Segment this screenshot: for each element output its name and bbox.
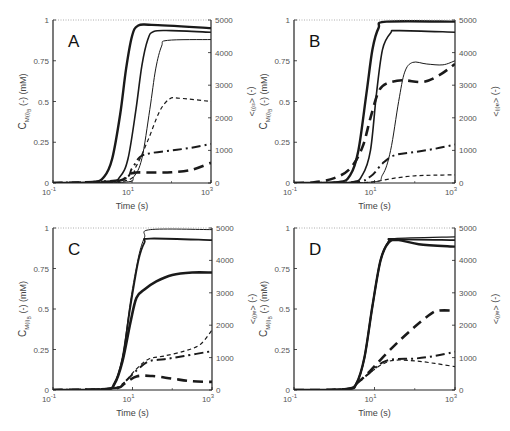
left-axis-label: CM(i)B (-) (mM) (17, 74, 32, 130)
x-tick-label: 10-1 (42, 186, 57, 197)
right-tick-label: 0 (215, 179, 220, 188)
series-line-dash-dot (53, 351, 212, 390)
x-tick-label: 101 (122, 186, 135, 197)
right-tick-label: 3000 (459, 81, 477, 90)
right-tick-label: 3000 (459, 289, 477, 298)
x-tick-label: 101 (122, 393, 135, 404)
right-axis-label: (-) <a(i)> (491, 86, 501, 117)
panel-letter: A (68, 32, 80, 51)
panel-d: 00.250.50.75101000200030004000500010-110… (258, 224, 501, 418)
right-axis-label: (-) <a(i)> (248, 294, 258, 325)
left-tick-label: 1 (45, 224, 50, 233)
x-tick-label: 103 (445, 186, 458, 197)
x-axis-label: Time (s) (358, 408, 391, 418)
right-tick-label: 1000 (215, 146, 233, 155)
right-tick-label: 3000 (215, 81, 233, 90)
x-tick-label: 10-1 (42, 393, 57, 404)
series-line-dash-thick (294, 64, 455, 183)
left-tick-label: 0.75 (274, 265, 290, 274)
left-tick-label: 0.5 (279, 305, 291, 314)
panel-letter: C (68, 240, 80, 259)
series-line-dash-thin (294, 360, 455, 390)
left-tick-label: 0.75 (33, 265, 49, 274)
x-tick-label: 103 (202, 393, 215, 404)
left-axis-label: CM(i)B (-) (mM) (17, 281, 32, 337)
x-axis-label: Time (s) (116, 408, 149, 418)
right-tick-label: 4000 (459, 256, 477, 265)
right-tick-label: 4000 (459, 49, 477, 58)
right-tick-label: 4000 (215, 49, 233, 58)
x-tick-label: 101 (364, 393, 377, 404)
panel-a: 00.250.50.75101000200030004000500010-110… (17, 16, 257, 211)
left-tick-label: 0 (45, 179, 50, 188)
series-line-dash-thin (53, 330, 212, 390)
right-axis-label: (-) <ε(i)> (247, 86, 257, 116)
right-tick-label: 0 (459, 386, 464, 395)
right-tick-label: 2000 (216, 321, 234, 330)
right-tick-label: 0 (216, 386, 221, 395)
right-tick-label: 5000 (459, 224, 477, 233)
right-tick-label: 5000 (215, 16, 233, 25)
x-tick-label: 103 (201, 186, 214, 197)
left-tick-label: 0.75 (274, 57, 290, 66)
left-tick-label: 0.5 (38, 98, 50, 107)
left-tick-label: 1 (286, 16, 291, 25)
right-tick-label: 0 (459, 179, 464, 188)
x-tick-label: 101 (364, 186, 377, 197)
series-line-dash-thick (53, 163, 211, 183)
series-line-dash-dot (294, 145, 455, 183)
panel-b: 00.250.50.75101000200030004000500010-110… (258, 16, 501, 211)
left-tick-label: 0 (286, 386, 291, 395)
x-tick-label: 103 (445, 393, 458, 404)
series-line-dash-dot (53, 144, 211, 183)
left-tick-label: 0.25 (33, 138, 49, 147)
panel-letter: B (309, 32, 320, 51)
right-tick-label: 1000 (216, 354, 234, 363)
left-tick-label: 0.5 (38, 305, 50, 314)
series-line-solid-thin (53, 40, 211, 183)
x-tick-label: 10-1 (283, 186, 298, 197)
panel-c: 00.250.50.75101000200030004000500010-110… (17, 224, 258, 418)
x-axis-label: Time (s) (358, 201, 391, 211)
right-tick-label: 2000 (459, 114, 477, 123)
left-tick-label: 1 (286, 224, 291, 233)
right-axis-label: (-) <a(i)> (491, 294, 501, 325)
right-tick-label: 1000 (459, 354, 477, 363)
series-line-solid-medium (53, 30, 211, 183)
left-tick-label: 0.75 (33, 57, 49, 66)
left-tick-label: 0.25 (33, 346, 49, 355)
right-tick-label: 3000 (216, 289, 234, 298)
right-tick-label: 5000 (459, 16, 477, 25)
panel-letter: D (309, 240, 321, 259)
left-axis-label: CM(i)B (-) (mM) (258, 281, 273, 337)
series-line-solid-medium (294, 31, 455, 183)
left-tick-label: 0.25 (274, 138, 290, 147)
series-group (294, 237, 455, 390)
left-tick-label: 0 (45, 386, 50, 395)
right-tick-label: 4000 (216, 256, 234, 265)
right-tick-label: 2000 (215, 114, 233, 123)
left-tick-label: 1 (45, 16, 50, 25)
left-axis-label: CM(i)B (-) (mM) (258, 74, 273, 130)
right-tick-label: 2000 (459, 321, 477, 330)
right-tick-label: 5000 (216, 224, 234, 233)
series-line-dash-dot (294, 352, 455, 390)
x-tick-label: 10-1 (283, 393, 298, 404)
series-line-dash-thick (294, 310, 455, 390)
left-tick-label: 0 (286, 179, 291, 188)
right-tick-label: 1000 (459, 146, 477, 155)
x-axis-label: Time (s) (116, 201, 149, 211)
figure: 00.250.50.75101000200030004000500010-110… (0, 0, 510, 431)
left-tick-label: 0.25 (274, 346, 290, 355)
left-tick-label: 0.5 (279, 98, 291, 107)
